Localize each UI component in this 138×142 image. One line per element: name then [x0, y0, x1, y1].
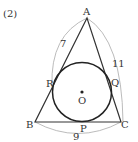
problem-label: (2)	[3, 8, 17, 19]
label-a: A	[82, 6, 91, 17]
geometry-figure: (2) A R Q O B P C 7 11 9	[0, 0, 138, 142]
label-o: O	[78, 95, 86, 106]
label-c: C	[121, 119, 129, 130]
label-r: R	[46, 78, 54, 89]
length-ac: 11	[112, 58, 125, 69]
length-bc: 9	[73, 131, 79, 142]
label-p: P	[80, 123, 87, 134]
length-ab: 7	[60, 38, 66, 49]
label-q: Q	[111, 77, 119, 88]
center-point-o	[80, 90, 83, 93]
label-b: B	[26, 119, 33, 130]
